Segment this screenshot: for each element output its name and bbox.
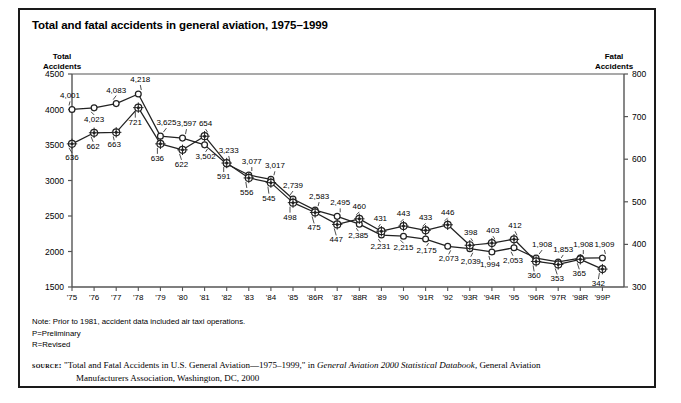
right-axis-tick: 300: [632, 282, 666, 292]
data-point-label: 4,083: [99, 86, 133, 95]
data-point-label: 4,001: [53, 91, 87, 100]
data-point-label: 2,053: [496, 256, 530, 265]
left-axis-tick: 4500: [30, 69, 64, 79]
source-label: source:: [32, 361, 62, 370]
data-point-label: 622: [165, 160, 199, 169]
data-point-label: 447: [319, 235, 353, 244]
data-point-label: 460: [342, 202, 376, 211]
data-point-label: 498: [273, 213, 307, 222]
left-axis-tick: 3000: [30, 176, 64, 186]
right-axis-tick: 800: [632, 69, 666, 79]
note-preliminary: P=Preliminary: [32, 329, 81, 338]
plot-area: 1500200025003000350040004500 30040050060…: [20, 10, 658, 390]
data-point-label: 591: [207, 172, 241, 181]
data-point-label: 663: [97, 140, 131, 149]
data-point-label: 636: [55, 153, 89, 162]
left-axis-tick: 1500: [30, 282, 64, 292]
note-revised: R=Revised: [32, 340, 70, 349]
data-point-label: 365: [562, 269, 596, 278]
data-point-label: 3,017: [258, 161, 292, 170]
right-axis-tick: 700: [632, 112, 666, 122]
source-line1-pre: "Total and Fatal Accidents in U.S. Gener…: [62, 360, 317, 370]
chart-figure-frame: Total and fatal accidents in general avi…: [18, 8, 656, 388]
data-point-label: 3,233: [212, 146, 246, 155]
left-axis-tick: 3500: [30, 140, 64, 150]
data-point-label: 721: [118, 118, 152, 127]
left-axis-tick: 2500: [30, 211, 64, 221]
note-air-taxi: Note: Prior to 1981, accident data inclu…: [32, 317, 245, 326]
data-point-label: 1,909: [587, 240, 621, 249]
data-point-label: 446: [431, 208, 465, 217]
left-axis-tick: 2000: [30, 247, 64, 257]
source-line2: Manufacturers Association, Washington, D…: [76, 372, 642, 385]
left-axis-tick: 4000: [30, 105, 64, 115]
right-axis-tick: 600: [632, 154, 666, 164]
x-axis-tick: '99P: [587, 293, 617, 302]
data-point-label: 4,218: [123, 75, 157, 84]
data-point-label: 342: [581, 279, 615, 288]
source-block: source: "Total and Fatal Accidents in U.…: [32, 359, 642, 385]
right-axis-tick: 500: [632, 197, 666, 207]
source-publication-title: General Aviation 2000 Statistical Databo…: [317, 360, 475, 370]
source-line1-post: , General Aviation: [475, 360, 541, 370]
data-point-label: 475: [297, 223, 331, 232]
data-point-label: 2,739: [276, 181, 310, 190]
data-point-label: 4,023: [77, 115, 111, 124]
data-point-label: 654: [189, 119, 223, 128]
data-point-label: 412: [498, 221, 532, 230]
right-axis-tick: 400: [632, 239, 666, 249]
data-point-label: 545: [252, 194, 286, 203]
